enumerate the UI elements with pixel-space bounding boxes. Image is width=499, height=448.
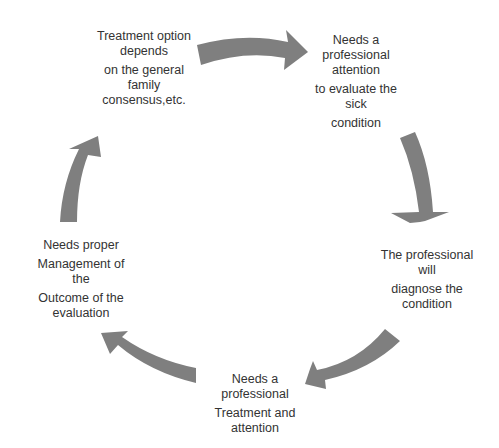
arrow-down-icon bbox=[391, 132, 449, 223]
node-text: professional bbox=[200, 387, 310, 402]
node-text: Management of bbox=[20, 257, 142, 272]
arrow-down-left-icon bbox=[305, 329, 400, 389]
node-text: professional bbox=[300, 48, 412, 63]
arrow-up-left-icon bbox=[101, 331, 196, 383]
node-text: attention bbox=[200, 421, 310, 436]
node-text: Treatment option bbox=[82, 29, 206, 44]
node-text: The professional bbox=[368, 248, 486, 263]
node-text: Needs a bbox=[300, 33, 412, 48]
node-text: Outcome of the bbox=[20, 291, 142, 306]
node-text: condition bbox=[300, 116, 412, 131]
arrow-right-icon bbox=[197, 30, 308, 70]
node-text: family bbox=[82, 78, 206, 93]
node-text: Needs a bbox=[200, 372, 310, 387]
node-text: diagnose the bbox=[368, 282, 486, 297]
node-text: the bbox=[20, 272, 142, 287]
node-text: will bbox=[368, 263, 486, 278]
node-text: evaluation bbox=[20, 306, 142, 321]
node-text: Treatment and bbox=[200, 406, 310, 421]
node-text: to evaluate the bbox=[300, 82, 412, 97]
arrow-up-icon bbox=[60, 136, 101, 222]
node-treatment-option: Treatment option depends on the general … bbox=[82, 29, 206, 108]
node-text: consensus,etc. bbox=[82, 93, 206, 108]
node-text: attention bbox=[300, 63, 412, 78]
node-text: on the general bbox=[82, 63, 206, 78]
node-professional-diagnose: The professional will diagnose the condi… bbox=[368, 248, 486, 312]
node-professional-treatment: Needs a professional Treatment and atten… bbox=[200, 372, 310, 436]
node-needs-professional-attention: Needs a professional attention to evalua… bbox=[300, 33, 412, 131]
node-text: sick bbox=[300, 97, 412, 112]
node-text: depends bbox=[82, 44, 206, 59]
node-proper-management: Needs proper Management of the Outcome o… bbox=[20, 238, 142, 321]
node-text: condition bbox=[368, 297, 486, 312]
node-text: Needs proper bbox=[20, 238, 142, 253]
